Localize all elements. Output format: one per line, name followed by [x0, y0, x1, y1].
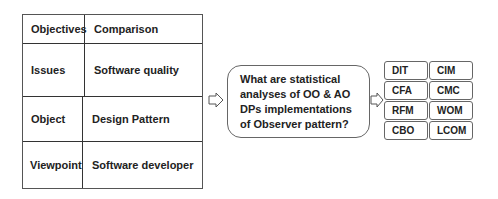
table-row: Issues Software quality [23, 44, 202, 97]
metric-lcom: LCOM [429, 121, 473, 140]
metric-cim: CIM [429, 61, 473, 80]
metric-cbo: CBO [384, 121, 428, 140]
row-value: Comparison [85, 15, 202, 43]
row-value: Design Pattern [83, 97, 202, 141]
metric-rfm: RFM [384, 101, 428, 120]
metric-cmc: CMC [429, 81, 473, 100]
metrics-grid: DIT CIM CFA CMC RFM WOM CBO LCOM [384, 61, 475, 141]
table-row: Objectives Comparison [23, 15, 202, 44]
metric-dit: DIT [384, 61, 428, 80]
row-value: Software quality [85, 44, 202, 96]
row-label: Objectives [23, 15, 85, 43]
table-row: Object Design Pattern [23, 97, 202, 142]
metric-cfa: CFA [384, 81, 428, 100]
row-value: Software developer [83, 142, 202, 188]
goal-table: Objectives Comparison Issues Software qu… [22, 14, 203, 189]
row-label: Viewpoint [23, 142, 83, 188]
row-label: Issues [23, 44, 85, 96]
research-question: What are statistical analyses of OO & AO… [227, 65, 370, 138]
metric-wom: WOM [429, 101, 473, 120]
arrow-right-icon [208, 92, 224, 108]
row-label: Object [23, 97, 83, 141]
arrow-right-icon [370, 92, 384, 108]
table-row: Viewpoint Software developer [23, 142, 202, 188]
